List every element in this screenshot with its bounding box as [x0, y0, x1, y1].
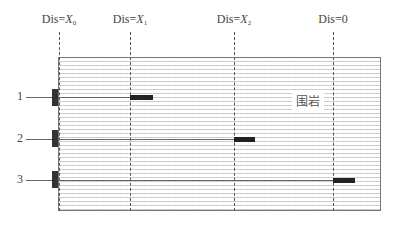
label-subscript: 1: [144, 19, 148, 27]
label-prefix: Dis=: [42, 12, 65, 26]
row-label-2: 2: [17, 131, 23, 146]
label-prefix: Dis=: [113, 12, 136, 26]
label-subscript: 2: [248, 19, 252, 27]
position-label-x2: Dis=X2: [217, 12, 251, 27]
label-value: 0: [342, 12, 348, 26]
row-1-probe-bar: [130, 95, 153, 100]
label-prefix: Dis=: [217, 12, 240, 26]
row-label-3: 3: [17, 172, 23, 187]
position-line-zero: [333, 32, 334, 211]
row-label-1: 1: [17, 89, 23, 104]
row-3-lead-line: [26, 180, 333, 181]
position-label-zero: Dis=0: [318, 12, 347, 27]
position-line-x0: [59, 32, 60, 211]
row-1-lead-line: [26, 97, 130, 98]
position-line-x1: [130, 32, 131, 211]
position-line-x2: [234, 32, 235, 211]
row-2-probe-bar: [234, 137, 255, 142]
row-2-anchor-block: [52, 130, 58, 147]
row-3-probe-bar: [333, 178, 355, 183]
label-variable: X: [65, 12, 72, 26]
rock-mass-label: 围岩: [292, 91, 324, 110]
row-1-anchor-block: [52, 89, 58, 106]
label-subscript: 0: [73, 19, 77, 27]
row-3-anchor-block: [52, 171, 58, 188]
position-label-x0: Dis=X0: [42, 12, 76, 27]
label-variable: X: [136, 12, 143, 26]
label-variable: X: [240, 12, 247, 26]
position-label-x1: Dis=X1: [113, 12, 147, 27]
label-prefix: Dis=: [318, 12, 341, 26]
